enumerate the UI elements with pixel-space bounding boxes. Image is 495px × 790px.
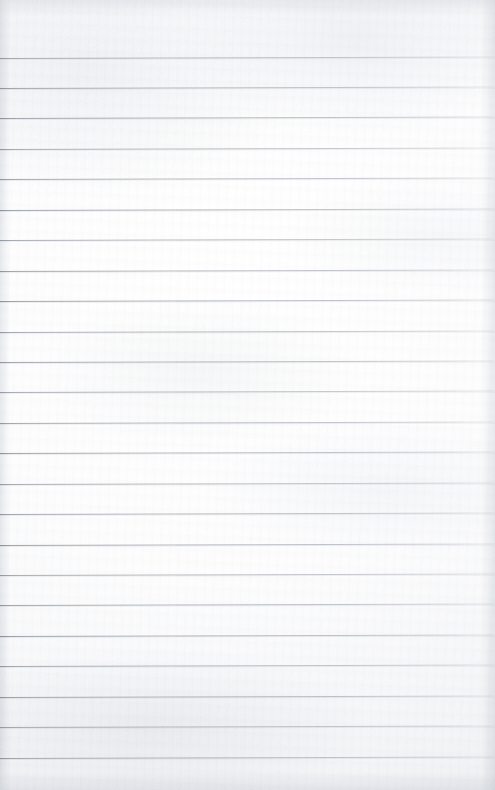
notepad-page [0,0,495,790]
page-content-area [0,57,495,757]
